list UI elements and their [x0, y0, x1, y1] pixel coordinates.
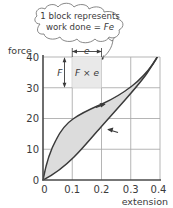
y-tick-label-30: 30: [26, 83, 39, 94]
x-tick-label-0.1: 0.1: [64, 184, 80, 195]
y-axis-label: force: [8, 45, 32, 56]
work-done-area-label: F × e: [75, 68, 99, 78]
y-tick-label-20: 20: [26, 113, 39, 124]
callout-line-2-prefix: work done =: [46, 22, 104, 32]
y-tick-label-0: 0: [33, 175, 39, 186]
x-tick-label-0.4: 0.4: [151, 184, 167, 195]
callout-line-2: work done = Fe: [46, 22, 114, 32]
x-axis-label: extension: [122, 196, 168, 207]
x-tick-label-0.2: 0.2: [94, 184, 110, 195]
force-extension-chart: 1 block represents work done = Fe: [0, 0, 173, 208]
x-tick-label-0: 0: [41, 184, 47, 195]
y-tick-label-10: 10: [26, 144, 39, 155]
force-symbol-label: F: [57, 68, 63, 78]
x-tick-label-0.3: 0.3: [123, 184, 139, 195]
callout-line-2-symbol: Fe: [104, 22, 114, 32]
callout-line-1: 1 block represents: [40, 11, 120, 21]
extension-symbol-label: e: [84, 46, 90, 56]
